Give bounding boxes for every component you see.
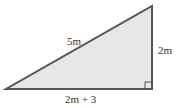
base-label: 2m + 3 bbox=[65, 93, 97, 105]
triangle-diagram: 5m 2m 2m + 3 bbox=[0, 0, 177, 108]
hypotenuse-label: 5m bbox=[67, 35, 82, 47]
vertical-leg-label: 2m bbox=[158, 44, 173, 56]
triangle-shape bbox=[6, 6, 152, 89]
